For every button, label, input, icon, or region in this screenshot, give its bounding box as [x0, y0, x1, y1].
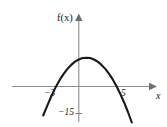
graph-canvas: [0, 0, 167, 127]
y-axis-arrow-icon: [75, 14, 82, 22]
parabola-curve: [43, 58, 132, 123]
x-axis-label: x: [156, 91, 160, 101]
parabola-graph-figure: f(x) x −3 5 −15: [0, 0, 167, 127]
y-axis-label-text: f(x): [57, 12, 73, 23]
y-tick-label-minimum: −15: [58, 108, 74, 118]
x-tick-label-left: −3: [44, 89, 55, 99]
y-axis-label: f(x): [57, 13, 73, 24]
x-tick-label-right: 5: [121, 89, 126, 99]
